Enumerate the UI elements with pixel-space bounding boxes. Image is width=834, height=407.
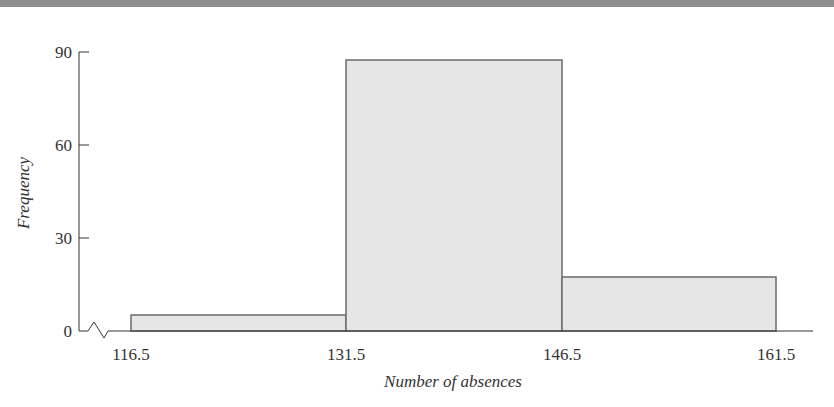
x-tick-131.5: 131.5 bbox=[327, 345, 365, 364]
x-tick-161.5: 161.5 bbox=[757, 345, 795, 364]
y-axis: 90 60 30 0 bbox=[55, 43, 89, 341]
histogram-chart: 90 60 30 0 116.5 131.5 146.5 161.5 Numbe… bbox=[0, 0, 834, 407]
bars bbox=[131, 60, 776, 331]
bar-116.5-131.5 bbox=[131, 315, 346, 331]
y-tick-90: 90 bbox=[55, 43, 72, 62]
axis-break-icon bbox=[79, 322, 131, 338]
y-axis-title: Frequency bbox=[14, 157, 33, 231]
x-axis-title: Number of absences bbox=[383, 372, 522, 391]
y-tick-60: 60 bbox=[55, 136, 72, 155]
bar-131.5-146.5 bbox=[346, 60, 562, 331]
y-tick-0: 0 bbox=[64, 322, 73, 341]
x-tick-146.5: 146.5 bbox=[543, 345, 581, 364]
y-tick-30: 30 bbox=[55, 229, 72, 248]
x-tick-116.5: 116.5 bbox=[112, 345, 150, 364]
bar-146.5-161.5 bbox=[562, 277, 776, 331]
